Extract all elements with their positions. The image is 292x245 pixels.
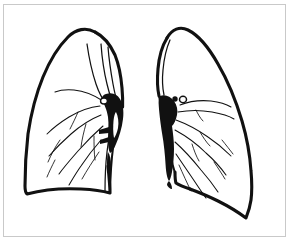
left-lung-bronchus-ring	[101, 98, 108, 104]
right-lung-vessel-arc-1	[180, 101, 231, 107]
right-lung-hilum-lower-tip	[167, 181, 172, 189]
right-lung-vessel-fan-1a	[200, 132, 210, 146]
right-lung-vessel-fan-2a	[192, 144, 199, 161]
left-lung-vessel-upper-arc	[55, 90, 103, 101]
lungs-illustration	[0, 0, 292, 245]
right-lung-vessel-dot	[172, 96, 177, 101]
right-lung-bronchus-ring	[180, 96, 187, 102]
right-lung-outline	[167, 28, 252, 218]
right-lung-group	[157, 28, 251, 218]
right-lung-vessel-fan-6	[214, 162, 225, 179]
right-lung-base	[175, 172, 190, 189]
left-lung-group	[25, 29, 123, 194]
right-lung-vessel-arc-2a	[196, 110, 203, 121]
left-lung-vessel-branch-7	[47, 160, 55, 177]
figure-root	[0, 0, 292, 245]
left-lung-vessel-branch-4	[69, 140, 101, 185]
left-lung-outline	[25, 29, 110, 194]
left-lung-vessel-branch-5	[82, 152, 99, 179]
right-lung-vessel-arc-2	[178, 111, 234, 120]
left-lung-vessel-branch-1	[47, 106, 100, 134]
